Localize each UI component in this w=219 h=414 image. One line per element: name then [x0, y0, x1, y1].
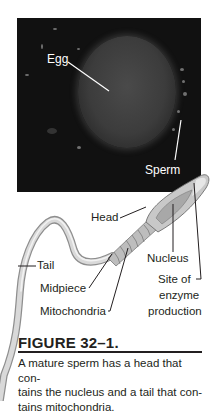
head-label: Head — [91, 211, 119, 223]
caption-line-1: A mature sperm has a head that con- — [18, 356, 204, 385]
tail-label: Tail — [37, 259, 54, 271]
site-of-enzyme-label-line3: production — [148, 305, 202, 317]
title-divider — [18, 351, 202, 353]
figure-caption: A mature sperm has a head that con- tain… — [18, 356, 204, 414]
nucleus-label: Nucleus — [147, 252, 189, 264]
site-of-enzyme-label-line2: enzyme — [159, 289, 199, 301]
midpiece-label: Midpiece — [40, 282, 86, 294]
caption-line-3: tains mitochondria. — [18, 400, 204, 414]
figure-title: FIGURE 32–1. — [18, 334, 119, 351]
caption-line-2: tains the nucleus and a tail that con- — [18, 385, 204, 400]
mitochondria-label: Mitochondria — [40, 305, 106, 317]
site-of-enzyme-label-line1: Site of — [158, 273, 191, 285]
